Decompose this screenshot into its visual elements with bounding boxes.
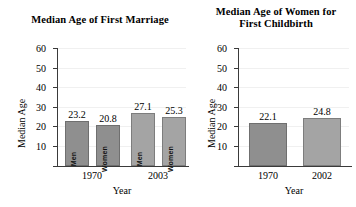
y-axis-label-right: Median Age <box>206 99 217 148</box>
bar-2003-women: 25.3 Women <box>162 117 186 166</box>
bar-value-2002-childbirth: 24.8 <box>313 106 331 117</box>
gridline-right-50 <box>239 68 349 69</box>
y-tick-label-left-40: 40 <box>36 82 46 93</box>
gridline-right-60 <box>239 48 349 49</box>
y-tick-right-10: 10 <box>234 146 239 147</box>
gridline-left-40 <box>58 87 186 88</box>
x-tick-label-right-2002: 2002 <box>312 170 332 181</box>
figure-two-bar-charts: Median Age of First Marriage Median Age … <box>0 0 356 207</box>
y-tick-label-left-10: 10 <box>36 140 46 151</box>
gridline-left-60 <box>58 48 186 49</box>
y-tick-label-left-20: 20 <box>36 121 46 132</box>
x-tick-label-left-2003: 2003 <box>148 170 168 181</box>
y-tick-label-left-60: 60 <box>36 43 46 54</box>
y-tick-right-20: 20 <box>234 126 239 127</box>
y-tick-label-right-30: 30 <box>217 101 227 112</box>
y-tick-right-40: 40 <box>234 87 239 88</box>
x-axis-line-right <box>234 166 352 167</box>
y-tick-left-30: 30 <box>53 107 58 108</box>
chart-title-line-1: Median Age of Women for <box>196 6 356 18</box>
bar-inner-label-1970-men: Men <box>70 152 77 167</box>
bar-inner-label-2003-women: Women <box>167 146 174 172</box>
x-axis-label-left: Year <box>113 185 131 196</box>
chart-title-line-2: First Childbirth <box>196 18 356 30</box>
chart-title-first-childbirth: Median Age of Women for First Childbirth <box>196 6 356 30</box>
y-tick-label-right-60: 60 <box>217 43 227 54</box>
x-tick-label-right-1970: 1970 <box>258 170 278 181</box>
plot-area-left: 10 20 30 40 50 60 23.2 Men 20 <box>58 49 186 166</box>
bar-1970-men: 23.2 Men <box>65 121 89 166</box>
gridline-right-30 <box>239 107 349 108</box>
y-tick-left-50: 50 <box>53 68 58 69</box>
y-tick-right-30: 30 <box>234 107 239 108</box>
bar-1970-childbirth: 22.1 <box>249 123 287 166</box>
x-axis-label-right: Year <box>285 185 303 196</box>
bar-1970-women: 20.8 Women <box>96 125 120 166</box>
chart-panel-first-childbirth: Median Age of Women for First Childbirth… <box>196 0 356 207</box>
bar-2003-men: 27.1 Men <box>131 113 155 166</box>
bar-inner-label-2003-men: Men <box>136 152 143 167</box>
bar-2002-childbirth: 24.8 <box>303 118 341 166</box>
bar-value-1970-men: 23.2 <box>68 109 86 120</box>
bar-value-1970-women: 20.8 <box>99 113 117 124</box>
y-tick-label-right-20: 20 <box>217 121 227 132</box>
bar-value-2003-women: 25.3 <box>165 105 183 116</box>
bar-value-1970-childbirth: 22.1 <box>259 111 277 122</box>
chart-title-first-marriage: Median Age of First Marriage <box>0 14 200 26</box>
y-tick-left-40: 40 <box>53 87 58 88</box>
y-tick-label-right-50: 50 <box>217 62 227 73</box>
y-tick-left-20: 20 <box>53 126 58 127</box>
y-tick-label-right-40: 40 <box>217 82 227 93</box>
bar-value-2003-men: 27.1 <box>134 101 152 112</box>
chart-panel-first-marriage: Median Age of First Marriage Median Age … <box>0 0 200 207</box>
bar-inner-label-1970-women: Women <box>101 146 108 172</box>
x-tick-label-left-1970: 1970 <box>82 170 102 181</box>
gridline-left-50 <box>58 68 186 69</box>
y-tick-label-right-10: 10 <box>217 140 227 151</box>
y-tick-right-60: 60 <box>234 48 239 49</box>
y-tick-left-10: 10 <box>53 146 58 147</box>
y-tick-left-60: 60 <box>53 48 58 49</box>
y-tick-label-left-30: 30 <box>36 101 46 112</box>
y-tick-label-left-50: 50 <box>36 62 46 73</box>
plot-area-right: 10 20 30 40 50 60 22.1 24.8 19 <box>239 49 349 166</box>
y-tick-right-50: 50 <box>234 68 239 69</box>
gridline-right-40 <box>239 87 349 88</box>
y-axis-label-left: Median Age <box>16 99 27 148</box>
